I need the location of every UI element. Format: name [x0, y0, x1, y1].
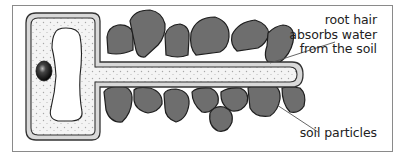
- soil-particles-label: soil particles: [300, 126, 377, 141]
- nucleus-shape: [36, 61, 52, 81]
- root-hair-label-line-1: root hair: [289, 13, 377, 28]
- root-hair-label: root hair absorbs water from the soil: [289, 13, 377, 57]
- root-hair-label-line-2: absorbs water: [289, 28, 377, 43]
- root-hair-label-line-3: from the soil: [289, 42, 377, 57]
